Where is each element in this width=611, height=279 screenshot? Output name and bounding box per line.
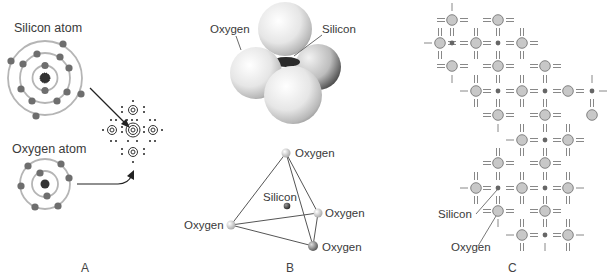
panel-c-lattice: [0, 0, 611, 279]
lattice-oxygen-label: Oxygen: [451, 242, 491, 254]
lattice-silicon-label: Silicon: [438, 209, 472, 221]
panel-letter-c: C: [508, 262, 517, 274]
lattice-leader-lines: [476, 190, 497, 246]
lattice-atoms: [435, 15, 598, 241]
